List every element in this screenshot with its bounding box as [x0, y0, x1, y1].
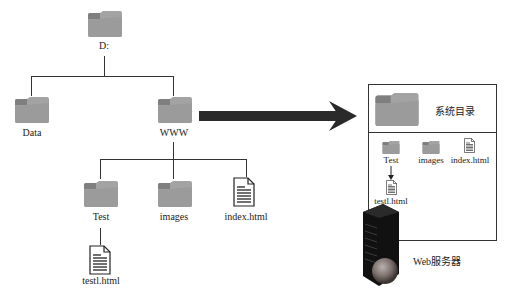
web-server-label: Web服务器: [413, 253, 461, 268]
folder-label-test: Test: [93, 211, 110, 222]
server-item-index: index.html: [451, 155, 490, 165]
connector: [100, 159, 101, 179]
arrow-right-icon: [199, 99, 359, 135]
server-icon: [355, 204, 435, 291]
html-file-icon[interactable]: [233, 177, 255, 207]
connector: [104, 56, 105, 76]
html-file-icon[interactable]: [464, 138, 475, 153]
folder-icon[interactable]: [422, 141, 440, 154]
server-item-images: images: [418, 155, 444, 165]
server-item-test: Test: [384, 155, 399, 165]
folder-label-images: images: [160, 211, 188, 222]
folder-label-www: WWW: [160, 127, 188, 138]
html-file-icon[interactable]: [386, 180, 397, 195]
folder-icon[interactable]: [382, 141, 400, 154]
folder-label-root: D:: [99, 40, 109, 51]
folder-icon[interactable]: [157, 97, 193, 123]
arrow-down-icon: [387, 166, 395, 180]
folder-label-data: Data: [23, 127, 42, 138]
connector: [31, 76, 174, 77]
folder-icon[interactable]: [83, 181, 119, 207]
folder-icon[interactable]: [87, 11, 123, 37]
folder-icon[interactable]: [157, 181, 193, 207]
connector: [246, 159, 247, 177]
html-file-icon[interactable]: [89, 245, 111, 275]
folder-icon: [374, 93, 420, 126]
file-label-index: index.html: [224, 211, 267, 222]
file-label-testl: testl.html: [82, 275, 120, 286]
system-directory-title: 系统目录: [435, 103, 475, 118]
connector: [173, 159, 174, 179]
connector: [173, 76, 174, 96]
folder-icon[interactable]: [14, 97, 50, 123]
divider: [369, 132, 496, 133]
connector: [31, 76, 32, 96]
connector: [100, 228, 101, 245]
